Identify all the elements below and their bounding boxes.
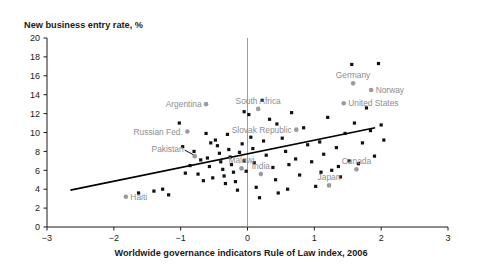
labeled-data-point — [351, 81, 356, 86]
data-point — [306, 143, 309, 146]
data-point — [178, 121, 181, 124]
label-leader-line — [185, 150, 194, 155]
data-point — [199, 158, 202, 161]
data-point — [268, 118, 271, 121]
data-point — [353, 121, 356, 124]
data-point — [196, 172, 199, 175]
labeled-data-point — [341, 101, 346, 106]
data-point — [369, 129, 372, 132]
data-point — [238, 151, 241, 154]
labeled-data-point — [239, 166, 244, 171]
y-axis-tick-label: 8 — [35, 147, 40, 157]
data-point-label: Pakistan — [152, 144, 184, 154]
y-axis-tick-label: 12 — [30, 109, 40, 119]
data-point — [251, 147, 254, 150]
x-axis-tick-label: 3 — [445, 233, 450, 243]
x-axis-tick-label: 1 — [312, 233, 317, 243]
labeled-data-point — [124, 194, 129, 199]
data-point-label: Argentina — [166, 99, 202, 109]
labeled-points-layer: ArgentinaSouth AfricaGermanyNorwayUnited… — [124, 70, 405, 201]
data-point — [294, 157, 297, 160]
data-point — [226, 133, 229, 136]
y-axis-tick-label: 18 — [30, 52, 40, 62]
data-point — [314, 185, 317, 188]
x-axis-tick-label: −2 — [109, 233, 119, 243]
data-point-label: Russian Fed. — [134, 127, 183, 137]
data-point — [249, 136, 252, 139]
data-point-label: Slovak Republic — [232, 125, 292, 135]
data-point — [274, 178, 277, 181]
x-axis-tick-label: −1 — [176, 233, 186, 243]
data-point — [255, 186, 258, 189]
data-point — [286, 188, 289, 191]
data-point — [243, 110, 246, 113]
data-point — [277, 191, 280, 194]
data-point — [361, 141, 364, 144]
x-axis-tick-label: −3 — [42, 233, 52, 243]
chart-canvas: 02468101214161820−3−2−10123 ArgentinaSou… — [0, 0, 482, 273]
data-point — [192, 150, 195, 153]
data-point — [298, 173, 301, 176]
x-axis-tick-label: 0 — [245, 233, 250, 243]
data-point — [224, 182, 227, 185]
data-point — [208, 165, 211, 168]
data-point — [232, 171, 235, 174]
data-point — [337, 165, 340, 168]
data-point — [322, 153, 325, 156]
data-point — [335, 146, 338, 149]
scatter-chart: · · · · · · · · · · · · · · · · · · · · … — [0, 0, 482, 273]
data-point — [204, 132, 207, 135]
data-point — [152, 189, 155, 192]
data-point — [161, 188, 164, 191]
data-point — [302, 126, 305, 129]
data-point — [219, 160, 222, 163]
data-point — [209, 141, 212, 144]
data-point — [234, 180, 237, 183]
data-point-label: South Africa — [236, 96, 282, 106]
data-point — [167, 193, 170, 196]
data-point — [382, 138, 385, 141]
data-point — [343, 132, 346, 135]
data-point — [216, 144, 219, 147]
y-axis-tick-label: 2 — [35, 203, 40, 213]
data-point — [281, 137, 284, 140]
data-point — [284, 150, 287, 153]
data-point — [202, 179, 205, 182]
data-point — [380, 123, 383, 126]
labeled-data-point — [354, 167, 359, 172]
y-axis-tick-label: 0 — [35, 222, 40, 232]
data-point — [206, 156, 209, 159]
data-point — [318, 140, 321, 143]
data-point-label: Norway — [376, 85, 405, 95]
data-point — [223, 174, 226, 177]
data-point-label: United States — [348, 98, 398, 108]
data-point — [258, 196, 261, 199]
labeled-data-point — [204, 102, 209, 107]
labeled-data-point — [327, 183, 332, 188]
data-point — [211, 176, 214, 179]
data-point-label: Malawi — [228, 155, 254, 165]
x-axis-tick-label: 2 — [379, 233, 384, 243]
data-point — [310, 160, 313, 163]
labeled-data-point — [369, 88, 374, 93]
y-axis-tick-label: 16 — [30, 71, 40, 81]
data-point — [227, 148, 230, 151]
data-point — [188, 164, 191, 167]
labeled-data-point — [256, 107, 261, 112]
data-point — [377, 62, 380, 65]
data-point — [330, 169, 333, 172]
y-axis-tick-label: 4 — [35, 184, 40, 194]
labeled-data-point — [259, 172, 264, 177]
data-point — [326, 116, 329, 119]
x-axis-title: Worldwide governance indicators Rule of … — [0, 248, 482, 258]
data-point — [290, 111, 293, 114]
data-point — [236, 189, 239, 192]
data-point — [265, 154, 268, 157]
data-point — [184, 172, 187, 175]
y-axis-tick-label: 14 — [30, 90, 40, 100]
y-axis-tick-label: 10 — [30, 128, 40, 138]
data-point-label: Japan — [318, 172, 341, 182]
data-point — [373, 155, 376, 158]
axes-layer: 02468101214161820−3−2−10123 — [30, 33, 451, 243]
data-point — [262, 139, 265, 142]
